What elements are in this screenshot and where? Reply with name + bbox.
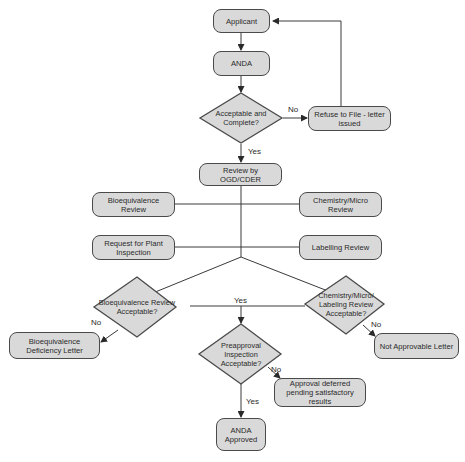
- flowchart-canvas: Applicant ANDA Refuse to File - letter i…: [0, 0, 465, 462]
- node-applicant-label: Applicant: [226, 17, 257, 26]
- node-bioequivalence-review-label: Bioequivalence Review: [96, 196, 171, 214]
- decision-bioequivalence: Bioequivalence Review Acceptable?: [98, 295, 176, 319]
- decision-acceptable-complete-label: Acceptable and Complete?: [206, 109, 276, 127]
- decision-chemistry: Chemistry/Micro/ Labeling Review Accepta…: [312, 288, 380, 320]
- edge-label-yes-review: Yes: [248, 147, 261, 156]
- edge-no-deficiency: [101, 330, 118, 342]
- edge-refuse-applicant: [273, 21, 341, 106]
- node-anda: ANDA: [213, 51, 270, 76]
- edge-label-no-chem: No: [371, 320, 381, 329]
- edge-label-no-preapproval: No: [271, 365, 281, 374]
- node-review-ogd-label: Review by OGD/CDER: [203, 166, 278, 184]
- node-plant-inspection-request: Request for Plant Inspection: [92, 235, 175, 260]
- node-anda-label: ANDA: [231, 59, 252, 68]
- edge-label-no-refuse: No: [288, 105, 298, 114]
- node-chemistry-micro-review: Chemistry/Micro Review: [299, 192, 382, 217]
- decision-preapproval-label: Preapproval Inspection Acceptable?: [212, 341, 270, 368]
- decision-bioequivalence-label: Bioequivalence Review Acceptable?: [98, 298, 176, 316]
- node-chemistry-micro-review-label: Chemistry/Micro Review: [303, 196, 378, 214]
- decision-chemistry-label: Chemistry/Micro/ Labeling Review Accepta…: [312, 291, 380, 318]
- node-anda-approved: ANDA Approved: [216, 418, 266, 451]
- node-approval-deferred-label: Approval deferred pending satisfactory r…: [278, 379, 362, 406]
- node-refuse-to-file: Refuse to File - letter issued: [308, 106, 391, 131]
- decision-acceptable-complete: Acceptable and Complete?: [206, 106, 276, 130]
- node-labelling-review-label: Labelling Review: [312, 243, 369, 252]
- node-bioequivalence-deficiency-label: Bioequivalence Deficiency Letter: [13, 337, 96, 355]
- node-not-approvable-label: Not Approvable Letter: [380, 342, 453, 351]
- node-anda-approved-label: ANDA Approved: [220, 426, 262, 444]
- branch-left: [148, 257, 241, 295]
- node-bioequivalence-deficiency: Bioequivalence Deficiency Letter: [9, 332, 100, 359]
- edge-label-yes-both: Yes: [234, 296, 247, 305]
- edge-label-yes-approved: Yes: [246, 397, 259, 406]
- edge-label-no-bio: No: [91, 318, 101, 327]
- node-approval-deferred: Approval deferred pending satisfactory r…: [274, 378, 366, 407]
- node-review-ogd: Review by OGD/CDER: [199, 163, 282, 186]
- node-refuse-to-file-label: Refuse to File - letter issued: [312, 110, 387, 128]
- node-plant-inspection-request-label: Request for Plant Inspection: [96, 239, 171, 257]
- node-bioequivalence-review: Bioequivalence Review: [92, 192, 175, 217]
- decision-preapproval: Preapproval Inspection Acceptable?: [212, 338, 270, 370]
- node-labelling-review: Labelling Review: [299, 235, 382, 260]
- node-applicant: Applicant: [213, 9, 270, 33]
- node-not-approvable: Not Approvable Letter: [374, 333, 459, 359]
